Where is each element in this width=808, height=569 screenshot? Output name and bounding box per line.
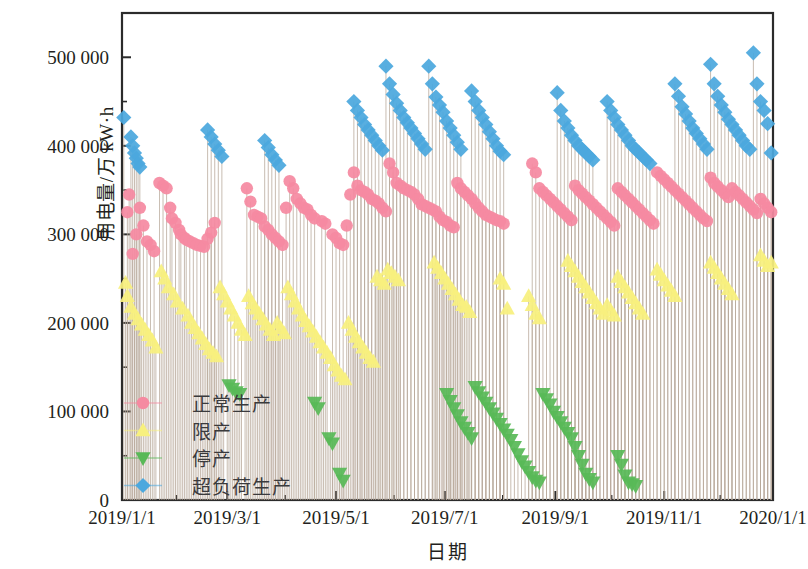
x-tick-label: 2019/11/1	[626, 507, 702, 528]
data-point	[764, 145, 779, 160]
data-point	[209, 217, 221, 229]
y-tick-label: 200 000	[47, 313, 109, 334]
data-point	[707, 76, 722, 91]
data-point	[608, 219, 620, 231]
data-point	[378, 59, 393, 74]
y-tick-label: 100 000	[47, 401, 109, 422]
x-axis-title: 日期	[122, 537, 774, 564]
y-axis-title-text: 用电量/万 kW·h	[91, 106, 118, 240]
data-point	[421, 59, 436, 74]
data-point	[276, 239, 288, 251]
legend-label: 停产	[192, 449, 232, 470]
data-point	[667, 76, 682, 91]
data-point	[497, 218, 509, 230]
x-tick-label: 2020/1/1	[739, 507, 807, 528]
data-point	[647, 218, 659, 230]
y-axis-title: 用电量/万 kW·h	[91, 64, 118, 284]
data-point	[703, 57, 718, 72]
data-point	[337, 239, 349, 251]
data-point	[387, 166, 399, 178]
x-tick-label: 2019/5/1	[302, 507, 370, 528]
electricity-consumption-scatter-chart: 0100 000200 000300 000400 000500 0002019…	[0, 0, 808, 569]
data-point	[160, 182, 172, 194]
data-point	[425, 76, 440, 91]
series-1-markers	[121, 157, 777, 260]
data-point	[164, 202, 176, 214]
data-point	[521, 288, 536, 302]
data-point	[127, 248, 139, 260]
data-point	[749, 76, 764, 91]
data-point	[319, 218, 331, 230]
data-point	[341, 219, 353, 231]
data-point	[746, 45, 761, 60]
data-point	[448, 221, 460, 233]
data-point	[287, 182, 299, 194]
legend-label: 超负荷生产	[192, 477, 292, 498]
data-point	[701, 215, 713, 227]
data-point	[380, 205, 392, 217]
data-point	[241, 182, 253, 194]
data-point	[565, 214, 577, 226]
data-point	[244, 195, 256, 207]
data-point	[500, 301, 515, 315]
data-point	[121, 206, 133, 218]
data-point	[348, 166, 360, 178]
legend-marker-circle	[137, 397, 149, 409]
legend-item-1[interactable]: 正常生产	[124, 394, 272, 415]
data-point	[134, 202, 146, 214]
series-4-markers	[116, 45, 779, 174]
data-point	[116, 110, 131, 125]
x-tick-label: 2019/3/1	[193, 507, 261, 528]
data-point	[550, 85, 565, 100]
data-point	[137, 219, 149, 231]
x-tick-label: 2019/9/1	[522, 507, 590, 528]
x-tick-label: 2019/7/1	[411, 507, 479, 528]
chart-figure: 0100 000200 000300 000400 000500 0002019…	[0, 0, 808, 569]
data-point	[123, 188, 135, 200]
data-point	[530, 166, 542, 178]
legend-label: 限产	[192, 422, 232, 443]
x-tick-label: 2019/1/1	[88, 507, 156, 528]
data-point	[765, 206, 777, 218]
legend-label: 正常生产	[192, 394, 272, 415]
data-point	[148, 245, 160, 257]
data-point	[280, 202, 292, 214]
